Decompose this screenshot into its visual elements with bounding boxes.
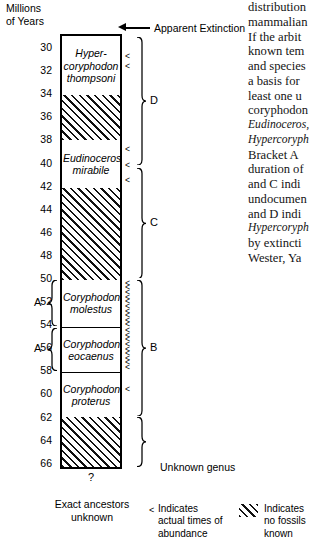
stratigraphic-column: Hyper-coryphodonthompsoniEudinocerosmira…: [60, 36, 122, 469]
exact-ancestors-line-1: Exact ancestors: [36, 498, 148, 511]
taxon-label: Eudinocerosmirabile: [62, 152, 120, 176]
legend-abundance-line-3: abundance: [158, 528, 228, 540]
taxon-label-line: Coryphodon: [63, 383, 119, 395]
bracket-C: [136, 168, 147, 279]
y-tick-34: 34: [22, 88, 52, 99]
taxon-label: Coryphodonmolestus: [62, 291, 120, 315]
y-tick-40: 40: [22, 158, 52, 169]
y-axis-ticks: 30323436384042444648505254565860626466: [0, 0, 58, 553]
exact-ancestors-note: Exact ancestors unknown: [36, 498, 148, 523]
body-text-line: distribution: [248, 0, 323, 15]
body-text-column: distributionmammalianIf the arbitknown t…: [248, 0, 323, 266]
taxon-label-line: Hyper-: [63, 47, 119, 59]
body-text-line: coryphodon: [248, 103, 323, 118]
body-text-line: known tem: [248, 44, 323, 59]
range-band-fossils: Coryphodonmolestus: [62, 280, 120, 327]
apparent-extinction-label: Apparent Extinction: [154, 21, 245, 35]
abundance-caret-icon: <: [125, 52, 130, 61]
taxon-label-line: coryphodon: [63, 59, 119, 71]
bracket-A-1: [47, 280, 58, 326]
taxon-label-line: eocaenus: [63, 350, 119, 362]
stratigraphic-range-figure: Millions of Years 3032343638404244464850…: [0, 0, 323, 553]
body-text-line: If the arbit: [248, 30, 323, 45]
bracket-label-B: B: [150, 342, 157, 353]
taxon-label: Coryphodoneocaenus: [62, 338, 120, 362]
y-tick-44: 44: [22, 204, 52, 215]
bracket-unknown-genus: [136, 417, 147, 467]
y-tick-66: 66: [22, 458, 52, 469]
taxon-label: Hyper-coryphodonthompsoni: [62, 47, 120, 84]
legend-caret-icon: <: [149, 505, 154, 515]
body-text-line: and species: [248, 59, 323, 74]
range-band-fossils: Hyper-coryphodonthompsoni: [62, 36, 120, 95]
bracket-D: [136, 37, 147, 165]
taxon-label-line: Coryphodon: [63, 291, 119, 303]
legend-hatch-line-2: no fossils: [264, 515, 323, 527]
body-text-line: mammalian: [248, 15, 323, 30]
range-band-fossils: Coryphodonproterus: [62, 372, 120, 417]
bracket-label-A-2: A: [34, 343, 41, 354]
legend-hatch-swatch: [239, 504, 258, 517]
y-tick-42: 42: [22, 181, 52, 192]
taxon-label-line: Coryphodon: [63, 338, 119, 350]
body-text-line: Eudinoceros,: [248, 118, 323, 133]
legend-abundance-line-1: Indicates: [158, 503, 228, 515]
y-tick-32: 32: [22, 65, 52, 76]
legend-hatch-line-1: Indicates: [264, 503, 323, 515]
y-tick-64: 64: [22, 435, 52, 446]
legend-abundance-line-2: actual times of: [158, 515, 228, 527]
question-mark: ?: [60, 471, 122, 483]
y-tick-46: 46: [22, 227, 52, 238]
unknown-genus-label: Unknown genus: [160, 461, 235, 473]
body-text-line: least one u: [248, 89, 323, 104]
legend-hatch-text: Indicates no fossils known: [264, 503, 323, 540]
bracket-label-C: C: [150, 217, 158, 228]
exact-ancestors-line-2: unknown: [36, 511, 148, 524]
y-tick-60: 60: [22, 388, 52, 399]
range-band-no-fossils: [62, 417, 120, 467]
taxon-label-line: Eudinoceros: [63, 152, 119, 164]
body-text-line: Hypercoryph: [248, 133, 323, 148]
bracket-B: [136, 280, 147, 416]
taxon-label-line: thompsoni: [63, 72, 119, 84]
body-text-line: duration of: [248, 162, 323, 177]
body-text-line: Wester, Ya: [248, 251, 323, 266]
legend-abundance-text: Indicates actual times of abundance: [158, 503, 228, 540]
bracket-A-2: [47, 328, 58, 371]
abundance-caret-icon: <: [125, 161, 130, 170]
body-text-line: Hypercoryph: [248, 221, 323, 236]
legend-hatch-line-3: known: [264, 528, 323, 540]
y-tick-62: 62: [22, 412, 52, 423]
abundance-caret-icon: <: [125, 385, 130, 394]
y-tick-48: 48: [22, 250, 52, 261]
bracket-label-D: D: [150, 95, 158, 106]
y-tick-36: 36: [22, 111, 52, 122]
body-text-line: a basis for: [248, 74, 323, 89]
bracket-label-A-1: A: [34, 297, 41, 308]
abundance-caret-icon: <: [125, 145, 130, 154]
y-tick-30: 30: [22, 42, 52, 53]
range-band-fossils: Eudinocerosmirabile: [62, 140, 120, 188]
column-top-cap: [60, 34, 122, 36]
range-band-fossils: Coryphodoneocaenus: [62, 327, 120, 372]
taxon-label-line: mirabile: [63, 164, 119, 176]
arrow-line: [122, 27, 150, 29]
taxon-label-line: proterus: [63, 395, 119, 407]
taxon-label-line: molestus: [63, 303, 119, 315]
y-tick-38: 38: [22, 134, 52, 145]
range-band-no-fossils: [62, 95, 120, 140]
abundance-caret-icon: <: [125, 176, 130, 185]
body-text-line: and D indi: [248, 207, 323, 222]
abundance-caret-icon: <: [125, 62, 130, 71]
taxon-label: Coryphodonproterus: [62, 383, 120, 407]
body-text-line: and C indi: [248, 177, 323, 192]
range-band-no-fossils: [62, 188, 120, 279]
abundance-caret-icon: <: [125, 363, 130, 372]
body-text-line: by extincti: [248, 236, 323, 251]
body-text-line: undocumen: [248, 192, 323, 207]
body-text-line: Bracket A: [248, 148, 323, 163]
column-bottom-cap: [60, 467, 122, 469]
